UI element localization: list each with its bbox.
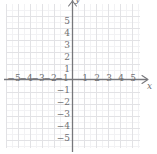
x-tick-label-4: 4 [118,74,124,83]
y-tick-label-5: 5 [64,17,70,26]
x-tick-label-3: 3 [106,74,112,83]
x-axis-label: x [147,82,152,91]
x-tick-label--1: −1 [55,74,68,83]
y-tick-label--5: −5 [57,134,70,143]
y-tick-label--2: −2 [57,98,70,107]
x-tick-label-5: 5 [130,74,136,83]
x-tick-label-1: 1 [82,74,88,83]
y-tick-label-2: 2 [64,53,70,62]
y-tick-label-4: 4 [64,29,70,38]
y-tick-label-3: 3 [64,41,70,50]
y-tick-label--1: −1 [57,86,70,95]
y-axis-label: y [75,0,80,4]
y-tick-label--3: −3 [57,110,70,119]
y-tick-label-1: 1 [64,65,70,74]
x-tick-label-2: 2 [94,74,100,83]
coordinate-plane: −5 −4 −3 −2 −1 1 2 3 4 5 5 4 3 2 1 −1 −2… [0,0,157,154]
y-tick-label--4: −4 [57,122,70,131]
